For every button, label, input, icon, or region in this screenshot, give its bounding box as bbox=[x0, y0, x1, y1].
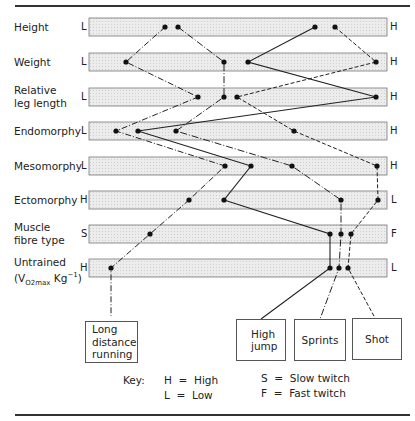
row-label-rel-line1: Relative bbox=[14, 84, 67, 97]
row-label-ectomorphy: Ectomorphy bbox=[14, 194, 77, 207]
bar-weight bbox=[89, 53, 387, 71]
hj-line1: High bbox=[251, 328, 277, 341]
vo2-sub-max: 2max bbox=[31, 278, 51, 286]
left-end-relative-leg: L bbox=[81, 91, 87, 102]
long-line2: distance bbox=[92, 336, 137, 349]
row-label-relative-leg-length: Relative leg length bbox=[14, 84, 67, 109]
key-fast-twitch: F = Fast twitch bbox=[261, 387, 346, 399]
sport-box-sprints: Sprints bbox=[294, 319, 346, 361]
left-end-endomorphy: L bbox=[81, 125, 87, 136]
row-label-endomorphy: Endomorphy bbox=[14, 125, 81, 138]
left-end-muscle-fibre: S bbox=[81, 228, 87, 239]
hj-line2: jump bbox=[251, 340, 277, 353]
bar-untrained-vo2max bbox=[89, 259, 387, 277]
right-end-untrained: L bbox=[391, 262, 397, 273]
row-label-mf-line1: Muscle bbox=[14, 221, 65, 234]
row-label-untrained-line1: Untrained bbox=[14, 256, 82, 269]
vo2-exp: −1 bbox=[67, 271, 77, 279]
vo2-unit: Kg bbox=[51, 271, 68, 283]
key-slow-twitch: S = Slow twitch bbox=[261, 372, 350, 384]
right-end-ectomorphy: L bbox=[391, 194, 397, 205]
sport-box-long-distance-running: Long distance running bbox=[85, 321, 138, 363]
row-label-untrained: Untrained (VO2max Kg−1) bbox=[14, 256, 82, 289]
key-title: Key: bbox=[123, 374, 145, 386]
right-end-weight: H bbox=[390, 56, 398, 67]
attribute-bars bbox=[89, 18, 387, 277]
long-line1: Long bbox=[92, 323, 137, 336]
row-label-muscle-fibre-type: Muscle fibre type bbox=[14, 221, 65, 246]
row-label-mesomorphy: Mesomorphy bbox=[14, 160, 82, 173]
left-end-height: L bbox=[81, 21, 87, 32]
key-low: L = Low bbox=[164, 389, 213, 401]
left-end-untrained: H bbox=[80, 262, 88, 273]
right-end-height: H bbox=[390, 21, 398, 32]
row-label-height: Height bbox=[14, 21, 49, 34]
vo2-symbol: (V bbox=[14, 271, 25, 283]
long-line3: running bbox=[92, 348, 137, 361]
shot-label: Shot bbox=[365, 333, 389, 346]
sprints-label: Sprints bbox=[302, 334, 339, 347]
bar-endomorphy bbox=[89, 122, 387, 140]
right-end-endomorphy: H bbox=[390, 125, 398, 136]
row-label-rel-line2: leg length bbox=[14, 97, 67, 110]
right-end-mesomorphy: H bbox=[390, 160, 398, 171]
sport-box-high-jump: High jump bbox=[236, 319, 286, 361]
right-end-muscle-fibre: F bbox=[391, 228, 397, 239]
left-end-weight: L bbox=[81, 56, 87, 67]
key-high: H = High bbox=[164, 374, 218, 386]
sport-box-shot: Shot bbox=[352, 318, 402, 360]
row-label-weight: Weight bbox=[14, 56, 51, 69]
bar-mesomorphy bbox=[89, 157, 387, 175]
row-label-untrained-line2: (VO2max Kg−1) bbox=[14, 269, 82, 289]
left-end-mesomorphy: L bbox=[81, 160, 87, 171]
right-end-relative-leg: H bbox=[390, 91, 398, 102]
left-end-ectomorphy: H bbox=[80, 194, 88, 205]
row-label-mf-line2: fibre type bbox=[14, 234, 65, 247]
